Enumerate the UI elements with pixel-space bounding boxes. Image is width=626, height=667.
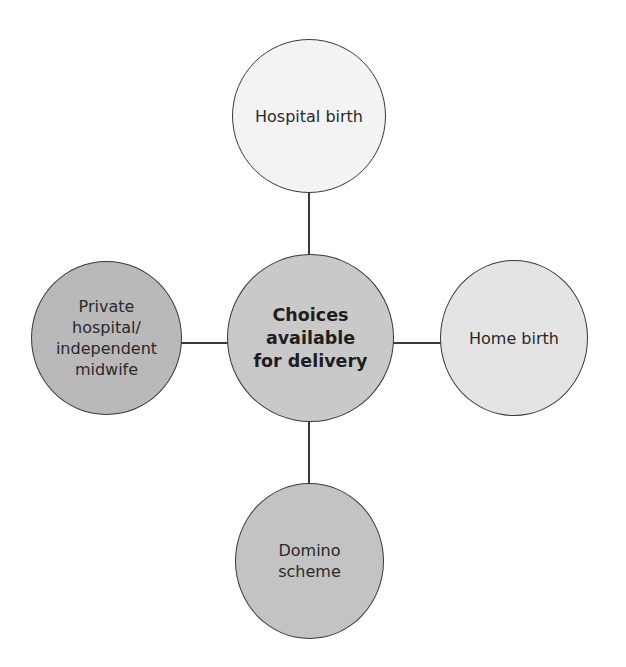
node-label: Home birth <box>469 328 559 349</box>
node-label: Private hospital/ independent midwife <box>56 296 157 380</box>
connector-left <box>180 342 230 344</box>
delivery-choices-diagram: Hospital birth Private hospital/ indepen… <box>0 0 626 667</box>
node-label: Hospital birth <box>255 106 363 127</box>
center-label: Choices available for delivery <box>253 304 367 373</box>
connector-bottom <box>308 420 310 484</box>
node-hospital-birth: Hospital birth <box>232 39 386 193</box>
node-domino-scheme: Domino scheme <box>235 483 384 639</box>
node-private-hospital: Private hospital/ independent midwife <box>31 261 182 415</box>
node-label: Domino scheme <box>278 540 341 582</box>
connector-right <box>391 342 442 344</box>
connector-top <box>308 191 310 255</box>
node-center-choices: Choices available for delivery <box>227 254 394 422</box>
node-home-birth: Home birth <box>440 260 588 416</box>
